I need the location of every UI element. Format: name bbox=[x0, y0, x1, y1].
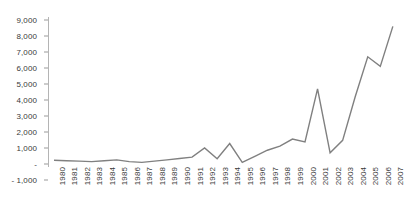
x-tick-label: 1997 bbox=[271, 167, 280, 185]
x-axis: 1980198119821983198419851986198719881989… bbox=[48, 0, 404, 200]
x-tick-label: 2007 bbox=[396, 167, 404, 185]
x-tick-label: 2003 bbox=[346, 167, 355, 185]
line-chart: - 1,000-1,0002,0003,0004,0005,0006,0007,… bbox=[0, 0, 404, 200]
x-tick-label: 1988 bbox=[158, 167, 167, 185]
y-tick-label: 6,000 bbox=[16, 64, 37, 73]
y-tick-label: 3,000 bbox=[16, 112, 37, 121]
x-tick-label: 1984 bbox=[108, 167, 117, 185]
x-tick-label: 1996 bbox=[258, 167, 267, 185]
x-tick-label: 1995 bbox=[246, 167, 255, 185]
x-tick-label: 2004 bbox=[359, 167, 368, 185]
y-axis: - 1,000-1,0002,0003,0004,0005,0006,0007,… bbox=[0, 0, 44, 200]
x-tick-label: 1993 bbox=[221, 167, 230, 185]
x-tick-label: 2005 bbox=[371, 167, 380, 185]
x-tick-label: 1991 bbox=[196, 167, 205, 185]
x-tick-label: 1982 bbox=[83, 167, 92, 185]
x-tick-label: 1983 bbox=[95, 167, 104, 185]
x-tick-label: 1985 bbox=[120, 167, 129, 185]
x-tick-label: 1998 bbox=[283, 167, 292, 185]
x-tick-label: 1992 bbox=[208, 167, 217, 185]
x-tick-label: 1989 bbox=[170, 167, 179, 185]
x-tick-label: 1980 bbox=[58, 167, 67, 185]
y-tick-label: 1,000 bbox=[16, 144, 37, 153]
x-tick-label: 1999 bbox=[296, 167, 305, 185]
y-tick-label: 8,000 bbox=[16, 32, 37, 41]
y-tick-label: 9,000 bbox=[16, 16, 37, 25]
y-tick-label: 4,000 bbox=[16, 96, 37, 105]
x-tick-label: 2000 bbox=[309, 167, 318, 185]
x-tick-label: 1981 bbox=[70, 167, 79, 185]
x-tick-label: 2001 bbox=[321, 167, 330, 185]
y-tick-label: 2,000 bbox=[16, 128, 37, 137]
y-tick-label: 5,000 bbox=[16, 80, 37, 89]
y-tick-label: 7,000 bbox=[16, 48, 37, 57]
x-tick-label: 1990 bbox=[183, 167, 192, 185]
x-tick-label: 1987 bbox=[145, 167, 154, 185]
y-tick-label: - 1,000 bbox=[11, 176, 37, 185]
x-tick-label: 1986 bbox=[133, 167, 142, 185]
x-tick-label: 2006 bbox=[384, 167, 393, 185]
y-tick-label: - bbox=[34, 160, 37, 169]
x-tick-label: 2002 bbox=[334, 167, 343, 185]
x-tick-label: 1994 bbox=[233, 167, 242, 185]
